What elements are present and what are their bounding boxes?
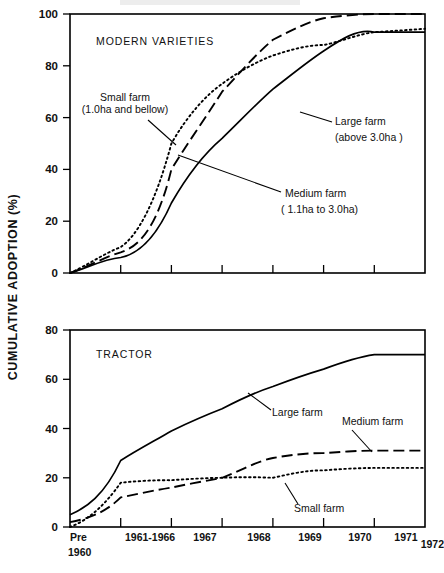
leader-medium-farm-bottom: [352, 430, 372, 452]
series-small-farm-top: [70, 29, 425, 273]
y-tick-bottom-0: 0: [52, 521, 58, 533]
y-tick-bottom-40: 40: [45, 423, 58, 435]
annotation-large-farm-bottom: Large farm: [248, 393, 323, 418]
annotation-medium-farm-top-line2: ( 1.1ha to 3.0ha): [281, 203, 358, 215]
y-tick-top-80: 80: [45, 60, 58, 72]
x-tick-label-1972: 1972: [421, 538, 444, 550]
y-axis-title: CUMULATIVE ADOPTION (%): [6, 194, 20, 381]
panel-tractor: 80 60 40 20 0 TRACTOR: [45, 324, 425, 533]
x-tick-label-1969: 1969: [298, 531, 322, 543]
chart-canvas: CUMULATIVE ADOPTION (%) 100 80 60 40 20 …: [0, 0, 444, 573]
annotation-large-farm-bottom-line1: Large farm: [272, 406, 323, 418]
annotation-small-farm-top: Small farm (1.0ha and bellow): [82, 91, 176, 145]
x-ticks-top: [121, 265, 375, 273]
x-tick-label-1971: 1971: [394, 531, 418, 543]
annotation-large-farm-top-line2: (above 3.0ha ): [335, 131, 403, 143]
annotation-small-farm-top-line2: (1.0ha and bellow): [82, 103, 168, 115]
series-medium-farm-top: [70, 14, 425, 273]
y-axis-bottom: 80 60 40 20 0: [45, 324, 70, 533]
leader-medium-farm-top: [178, 155, 281, 192]
annotation-medium-farm-bottom: Medium farm: [342, 415, 404, 452]
annotation-small-farm-top-line1: Small farm: [100, 91, 150, 103]
y-tick-top-40: 40: [45, 163, 58, 175]
x-tick-label-pre: Pre: [70, 531, 87, 543]
annotation-small-farm-bottom: Small farm: [285, 483, 344, 514]
x-tick-label-1961-1966: 1961-1966: [125, 531, 175, 543]
leader-small-farm-bottom: [285, 483, 298, 504]
panel-title-tractor: TRACTOR: [96, 348, 153, 360]
y-tick-bottom-60: 60: [45, 373, 58, 385]
x-tick-label-1970: 1970: [348, 531, 372, 543]
series-small-farm-bottom: [70, 468, 425, 527]
y-tick-top-0: 0: [52, 267, 58, 279]
y-tick-bottom-80: 80: [45, 324, 58, 336]
annotation-large-farm-top-line1: Large farm: [335, 115, 386, 127]
panel-modern-varieties: 100 80 60 40 20 0 MODERN VARIETIES: [39, 8, 425, 279]
x-tick-label-1968: 1968: [247, 531, 271, 543]
x-tick-label-1967: 1967: [193, 531, 217, 543]
series-medium-farm-bottom: [70, 451, 425, 522]
panel-title-modern-varieties: MODERN VARIETIES: [96, 35, 214, 47]
x-tick-label-pre-year: 1960: [68, 546, 92, 558]
y-tick-top-20: 20: [45, 215, 58, 227]
annotation-small-farm-bottom-line1: Small farm: [294, 502, 344, 514]
y-axis-top: 100 80 60 40 20 0: [39, 8, 70, 279]
y-tick-top-60: 60: [45, 112, 58, 124]
y-tick-top-100: 100: [39, 8, 58, 20]
annotation-medium-farm-bottom-line1: Medium farm: [342, 415, 404, 427]
figure-container: CUMULATIVE ADOPTION (%) 100 80 60 40 20 …: [0, 0, 444, 573]
leader-large-farm-bottom: [248, 393, 271, 410]
annotation-large-farm-top: Large farm (above 3.0ha ): [300, 112, 403, 143]
y-tick-bottom-20: 20: [45, 472, 58, 484]
annotation-medium-farm-top: Medium farm ( 1.1ha to 3.0ha): [178, 155, 358, 215]
leader-large-farm-top: [300, 112, 332, 122]
scan-top-artifact: [120, 0, 300, 5]
annotation-medium-farm-top-line1: Medium farm: [285, 187, 347, 199]
plot-frame-top: [70, 14, 425, 273]
series-large-farm-bottom: [70, 355, 425, 515]
x-ticks-bottom: [121, 518, 375, 527]
leader-small-farm-top: [148, 120, 176, 145]
x-axis-labels: Pre 1960 1961-1966 1967 1968 1969 1970 1…: [68, 531, 444, 558]
